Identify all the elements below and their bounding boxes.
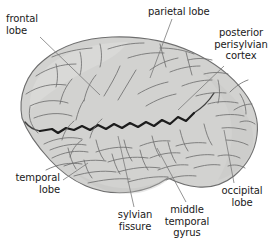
label-sylvian-fissure: sylvian fissure xyxy=(108,209,162,232)
label-occipital-lobe: occipital lobe xyxy=(216,185,268,208)
label-temporal-lobe: temporal lobe xyxy=(2,172,60,195)
label-parietal-lobe: parietal lobe xyxy=(148,6,216,18)
label-frontal-lobe: frontal lobe xyxy=(6,13,58,36)
label-posterior-perisylvian-cortex: posterior perisylvian cortex xyxy=(212,27,270,62)
label-middle-temporal-gyrus: middle temporal gyrus xyxy=(158,204,216,239)
brain-anatomy-figure: frontal lobe parietal lobe posterior per… xyxy=(0,0,272,249)
